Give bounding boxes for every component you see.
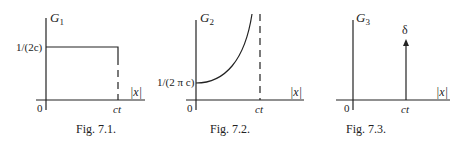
step-plateau [46,47,118,58]
origin-label: 0 [344,102,350,114]
x-tick-label: ct [401,103,410,115]
figure-7-2: G2 1/(2 π c) |x| 0 ct Fig. 7.2. [157,10,304,136]
figure-7-3: G3 δ |x| 0 ct Fig. 7.3. [336,10,450,136]
x-tick-label: ct [255,103,264,115]
figure-caption: Fig. 7.1. [76,122,116,136]
x-tick-label: ct [113,103,122,115]
y-axis-label: G1 [50,10,64,27]
y-tick-label: 1/(2 π c) [157,76,195,89]
y-tick-label: 1/(2c) [16,41,43,54]
figure-caption: Fig. 7.3. [346,122,386,136]
figures-canvas: G1 1/(2c) |x| 0 ct Fig. 7.1. G2 1/(2 π c… [0,0,467,148]
x-axis-label: |x| [130,85,142,99]
delta-label: δ [402,23,408,37]
x-axis-label: |x| [436,85,448,99]
arrow-head-icon [403,39,409,46]
y-axis-label: G2 [200,10,214,27]
y-axis-label: G3 [356,10,370,27]
figure-7-1: G1 1/(2c) |x| 0 ct Fig. 7.1. [16,10,145,136]
origin-label: 0 [37,102,43,114]
figure-caption: Fig. 7.2. [210,122,250,136]
x-axis-label: |x| [290,85,302,99]
origin-label: 0 [187,102,193,114]
